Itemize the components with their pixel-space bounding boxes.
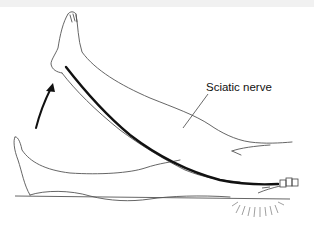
label-leader-line — [183, 94, 208, 128]
raised-leg — [51, 12, 292, 182]
leg-raise-illustration — [0, 0, 314, 226]
sciatic-nerve-label: Sciatic nerve — [206, 81, 272, 93]
lift-direction-arrow — [36, 83, 55, 128]
resting-leg — [14, 137, 230, 201]
pressure-rays — [232, 202, 284, 217]
